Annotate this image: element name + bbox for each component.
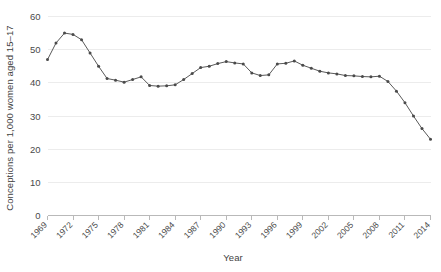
x-tick-label-2005: 2005 [335, 220, 356, 241]
data-point-1979 [131, 78, 134, 81]
data-point-2002 [327, 71, 330, 74]
data-point-2009 [386, 80, 389, 83]
x-tick-label-1987: 1987 [182, 220, 203, 241]
y-tick-label-30: 30 [30, 111, 41, 122]
data-point-1989 [216, 62, 219, 65]
data-point-1992 [242, 62, 245, 65]
data-point-2010 [395, 90, 398, 93]
x-tick-label-1975: 1975 [80, 220, 101, 241]
data-point-2005 [352, 74, 355, 77]
data-point-2008 [378, 75, 381, 78]
series-line-conceptions [48, 33, 431, 139]
data-point-1999 [301, 64, 304, 67]
data-point-1981 [148, 84, 151, 87]
x-tick-label-1993: 1993 [233, 220, 254, 241]
data-point-1971 [63, 32, 66, 35]
x-tick-label-2002: 2002 [309, 220, 330, 241]
data-point-1977 [114, 79, 117, 82]
data-point-1973 [80, 38, 83, 41]
y-tick-label-40: 40 [30, 77, 41, 88]
data-point-1970 [55, 42, 58, 45]
data-point-1987 [199, 66, 202, 69]
x-tick-label-2014: 2014 [411, 220, 432, 241]
data-point-1985 [182, 78, 185, 81]
data-point-1998 [293, 59, 296, 62]
x-tick-label-1981: 1981 [131, 220, 152, 241]
data-point-2001 [318, 70, 321, 73]
y-tick-label-10: 10 [30, 177, 41, 188]
data-point-1995 [267, 73, 270, 76]
data-point-1993 [250, 71, 253, 74]
data-point-1974 [89, 51, 92, 54]
data-point-1976 [106, 77, 109, 80]
data-point-1969 [46, 58, 49, 61]
data-point-2007 [369, 75, 372, 78]
data-point-1986 [191, 72, 194, 75]
x-tick-label-1978: 1978 [105, 220, 126, 241]
y-tick-label-60: 60 [30, 11, 41, 22]
data-point-2014 [429, 138, 432, 141]
data-point-2004 [344, 74, 347, 77]
data-point-2013 [420, 127, 423, 130]
data-point-1996 [276, 62, 279, 65]
data-point-1988 [208, 65, 211, 68]
x-tick-label-1996: 1996 [258, 220, 279, 241]
x-tick-label-1969: 1969 [28, 220, 49, 241]
x-tick-label-1972: 1972 [54, 220, 75, 241]
data-point-1972 [72, 33, 75, 36]
chart-container: Conceptions per 1,000 women aged 15–17 0… [0, 0, 441, 272]
data-point-1982 [157, 85, 160, 88]
data-point-1984 [174, 83, 177, 86]
y-tick-label-0: 0 [35, 210, 40, 221]
data-point-1975 [97, 65, 100, 68]
data-point-2012 [412, 115, 415, 118]
data-point-1997 [284, 62, 287, 65]
data-point-2011 [403, 101, 406, 104]
y-tick-label-50: 50 [30, 44, 41, 55]
x-tick-label-2008: 2008 [360, 220, 381, 241]
x-axis-title: Year [0, 252, 441, 263]
x-tick-label-1990: 1990 [207, 220, 228, 241]
line-chart-plot: 0102030405060196919721975197819811984198… [0, 0, 441, 272]
data-point-2006 [361, 75, 364, 78]
x-tick-label-2011: 2011 [386, 220, 406, 240]
data-point-1980 [140, 75, 143, 78]
y-tick-label-20: 20 [30, 144, 41, 155]
data-point-1990 [225, 60, 228, 63]
x-tick-label-1984: 1984 [156, 220, 177, 241]
data-point-1994 [259, 74, 262, 77]
data-point-2003 [335, 72, 338, 75]
data-point-1991 [233, 61, 236, 64]
data-point-1983 [165, 84, 168, 87]
x-tick-label-1999: 1999 [284, 220, 305, 241]
data-point-2000 [310, 67, 313, 70]
data-point-1978 [123, 81, 126, 84]
